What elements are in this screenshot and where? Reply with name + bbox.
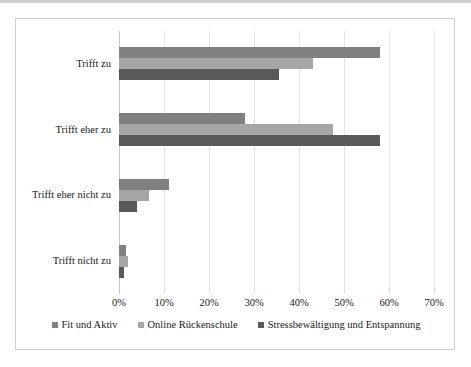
legend-item[interactable]: Online Rückenschule: [138, 319, 238, 330]
bar: [119, 201, 137, 212]
bar: [119, 135, 380, 146]
legend-swatch-icon: [258, 322, 264, 328]
bar-group: [119, 47, 434, 80]
y-axis-label: Trifft eher zu: [56, 124, 111, 136]
bar: [119, 256, 128, 267]
x-axis-tick-labels: 0%10%20%30%40%50%60%70%: [119, 297, 434, 315]
bar: [119, 245, 126, 256]
x-axis-tick-label: 20%: [199, 297, 218, 308]
legend-swatch-icon: [52, 322, 58, 328]
top-rule-divider: [0, 0, 471, 3]
chart-figure: Trifft zuTrifft eher zuTrifft eher nicht…: [0, 0, 471, 367]
bar: [119, 179, 169, 190]
bar: [119, 47, 380, 58]
bar: [119, 190, 149, 201]
y-axis-label: Trifft eher nicht zu: [32, 189, 111, 201]
chart-frame: Trifft zuTrifft eher zuTrifft eher nicht…: [15, 18, 455, 350]
plot-area: [119, 31, 434, 294]
y-axis-label: Trifft zu: [76, 58, 111, 70]
legend-label: Fit und Aktiv: [62, 319, 118, 330]
bar-group: [119, 113, 434, 146]
bar-group: [119, 179, 434, 212]
bar: [119, 69, 279, 80]
chart-legend: Fit und AktivOnline RückenschuleStressbe…: [16, 319, 456, 330]
x-axis-tick-label: 40%: [289, 297, 308, 308]
legend-label: Stressbewältigung und Entspannung: [268, 319, 421, 330]
bar: [119, 267, 124, 278]
y-axis-category-labels: Trifft zuTrifft eher zuTrifft eher nicht…: [16, 31, 117, 294]
y-axis-label: Trifft nicht zu: [53, 255, 111, 267]
legend-item[interactable]: Fit und Aktiv: [52, 319, 118, 330]
legend-item[interactable]: Stressbewältigung und Entspannung: [258, 319, 421, 330]
x-axis-tick-label: 0%: [112, 297, 126, 308]
bar: [119, 58, 313, 69]
bar: [119, 124, 333, 135]
bar: [119, 113, 245, 124]
legend-swatch-icon: [138, 322, 144, 328]
x-axis-tick-label: 50%: [334, 297, 353, 308]
x-axis-tick-label: 30%: [244, 297, 263, 308]
x-axis-tick-label: 10%: [154, 297, 173, 308]
gridline-70: [434, 31, 435, 294]
x-axis-tick-label: 70%: [424, 297, 443, 308]
bar-group: [119, 245, 434, 278]
legend-label: Online Rückenschule: [148, 319, 238, 330]
x-axis-tick-label: 60%: [379, 297, 398, 308]
bars-layer: [119, 31, 434, 294]
